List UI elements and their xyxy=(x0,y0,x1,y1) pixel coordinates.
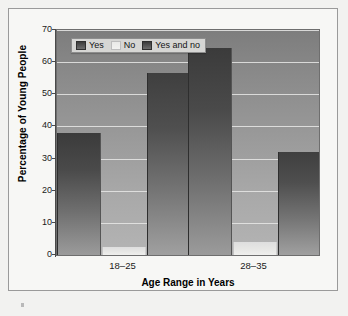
gridline xyxy=(57,30,319,31)
y-tick-label: 60 xyxy=(6,57,52,66)
y-tick-label: 20 xyxy=(6,186,52,195)
x-tick-label: 18–25 xyxy=(83,260,163,271)
bar xyxy=(278,152,321,255)
legend-item: No xyxy=(111,41,136,50)
legend-label: Yes xyxy=(89,41,104,50)
bar xyxy=(147,73,191,255)
plot-area: YesNoYes and no xyxy=(56,29,320,256)
dark-gradient-swatch xyxy=(76,41,86,50)
y-tick-label: 30 xyxy=(6,154,52,163)
light-gradient-swatch xyxy=(111,41,121,50)
legend-item: Yes and no xyxy=(142,41,200,50)
x-axis-title: Age Range in Years xyxy=(56,277,320,288)
y-tick-label: 10 xyxy=(6,218,52,227)
bar xyxy=(188,48,232,255)
scan-artifact xyxy=(21,303,24,307)
legend-label: No xyxy=(124,41,136,50)
y-tick-label: 70 xyxy=(6,25,52,34)
chart-legend: YesNoYes and no xyxy=(71,38,206,53)
y-axis-ticks: 010203040506070 xyxy=(2,29,52,256)
bar xyxy=(57,133,101,255)
dark-gradient-swatch xyxy=(142,41,152,50)
y-tick-label: 0 xyxy=(6,250,52,259)
y-tick-label: 40 xyxy=(6,121,52,130)
legend-label: Yes and no xyxy=(155,41,200,50)
y-tick-label: 50 xyxy=(6,89,52,98)
bar xyxy=(233,242,277,255)
bar xyxy=(102,247,146,255)
legend-item: Yes xyxy=(76,41,104,50)
chart-figure: Percentage of Young People 0102030405060… xyxy=(0,0,348,316)
x-tick-label: 28–35 xyxy=(214,260,294,271)
